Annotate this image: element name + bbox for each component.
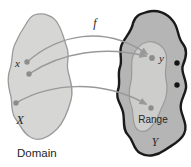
figure-function-mapping: f x X Domain y Range Y: [0, 0, 191, 167]
codomain-point-outside-range-1: [174, 60, 179, 65]
diagram-canvas: f x X Domain y Range Y: [0, 0, 191, 167]
range-point-y: [149, 55, 155, 61]
domain-point-x3: [13, 100, 18, 105]
function-label: f: [93, 16, 98, 30]
range-point-2: [148, 105, 153, 110]
domain-caption: Domain: [17, 147, 57, 159]
domain-point-x2: [26, 71, 31, 76]
domain-point-x1: [24, 59, 29, 64]
domain-element-label: x: [14, 57, 20, 69]
codomain-point-outside-range-2: [174, 82, 179, 87]
codomain-element-label: y: [158, 52, 164, 64]
domain-set-label: X: [15, 113, 25, 127]
range-label: Range: [138, 114, 168, 125]
